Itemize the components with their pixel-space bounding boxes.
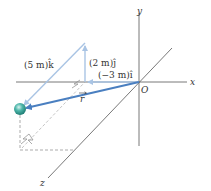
y-axis-label: y (136, 6, 143, 16)
break-marker-upper (72, 80, 80, 88)
x-axis-label: x (190, 77, 195, 87)
k-component-label: (5 m)k̂ (24, 58, 54, 70)
z-axis-label: z (39, 178, 45, 188)
j-component-label: (2 m)ĵ (89, 58, 116, 68)
position-vector-diagram: y x z O (5 m)k̂ (2 m)ĵ (−3 m)î r (0, 0, 211, 191)
svg-text:r: r (80, 94, 85, 104)
position-vector-label: r (79, 92, 87, 104)
particle-sphere (14, 103, 26, 115)
origin-label: O (141, 85, 149, 95)
i-component-label: (−3 m)î (98, 70, 133, 80)
